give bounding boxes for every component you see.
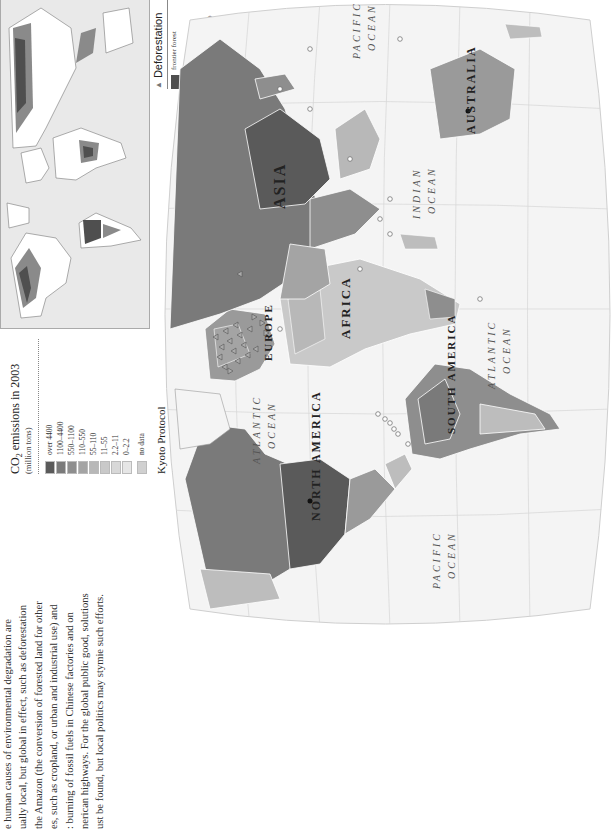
ocean-line: PACIFIC <box>431 531 442 590</box>
legend-swatch <box>100 461 110 474</box>
co2-legend-title: CO2 emissions in 2003 <box>8 334 24 474</box>
inset-congo-frontier <box>83 146 93 158</box>
legend-swatch <box>78 461 88 474</box>
label-australia-text: AUSTRALIA <box>464 45 478 134</box>
label-australia: AUSTRALIA <box>464 45 478 134</box>
legend-swatch <box>111 461 121 474</box>
co2-legend-subtitle: (million tons) <box>23 334 33 474</box>
co2-legend-item: 11–55 <box>99 334 110 474</box>
legend-label: 11–55 <box>100 437 109 455</box>
legend-label: 55–110 <box>89 433 98 455</box>
inset-map-svg <box>1 0 150 328</box>
paragraph-line: nerican highways. For the global public … <box>77 519 92 829</box>
legend-label: 0–2.2 <box>122 438 131 455</box>
co2-legend-item: 55–110 <box>88 334 99 474</box>
deforestation-inset-map <box>0 0 150 329</box>
island-marker <box>348 157 353 162</box>
co2-legend-item: 0–2.2 <box>121 334 132 474</box>
legend-swatch <box>45 461 55 474</box>
legend-label: 550–1100 <box>67 425 76 455</box>
ocean-line: INDIAN <box>411 168 422 220</box>
co2-title-prefix: CO <box>8 457 22 474</box>
paragraph-line: the Amazon (the conversion of forested l… <box>31 519 46 829</box>
co2-title-suffix: emissions in 2003 <box>8 364 22 454</box>
island-marker <box>396 432 401 437</box>
label-south-america: SOUTH AMERICA <box>445 314 457 434</box>
co2-legend-item: 2.2–11 <box>110 334 121 474</box>
island-marker <box>398 37 403 42</box>
co2-legend-item: 1100–4400 <box>55 334 66 474</box>
ocean-line: OCEAN <box>446 531 457 579</box>
label-europe-text: EUROPE <box>262 303 274 361</box>
paragraph-line: es, such as cropland, or urban and indus… <box>46 519 61 829</box>
label-north-america-text: NORTH AMERICA <box>309 390 323 521</box>
island-marker <box>478 297 483 302</box>
legend-swatch <box>56 461 66 474</box>
island-marker <box>308 47 313 52</box>
island-marker <box>383 417 388 422</box>
legend-label: 110–550 <box>78 429 87 455</box>
legend-swatch <box>137 461 147 474</box>
island-marker <box>388 197 393 202</box>
island-marker <box>278 327 283 332</box>
world-map-svg: NORTH AMERICA SOUTH AMERICA EUROPE AFRIC… <box>150 0 612 629</box>
paragraph-line: : burning of fossil fuels in Chinese fac… <box>62 519 77 829</box>
label-asia-text: ASIA <box>271 163 288 209</box>
island-marker <box>378 217 383 222</box>
paragraph-line: e human causes of environmental degradat… <box>0 519 15 829</box>
island-marker <box>308 107 313 112</box>
co2-legend-item: 550–1100 <box>66 334 77 474</box>
legend-label: no data <box>137 433 146 455</box>
intro-paragraph: e human causes of environmental degradat… <box>0 519 108 829</box>
island-marker <box>388 232 393 237</box>
ocean-line: OCEAN <box>366 3 377 51</box>
paragraph-line: ually local, but global in effect, such … <box>15 519 30 829</box>
ocean-line: OCEAN <box>266 401 277 449</box>
label-north-america: NORTH AMERICA <box>309 390 323 521</box>
legend-swatch <box>89 461 99 474</box>
legend-label: over 4400 <box>45 425 54 455</box>
co2-legend-item: over 4400 <box>44 334 55 474</box>
island-marker <box>278 87 283 92</box>
ocean-line: ATLANTIC <box>486 320 497 390</box>
divider <box>38 339 39 474</box>
legend-swatch <box>67 461 77 474</box>
co2-legend-item: no data <box>136 334 147 474</box>
label-asia: ASIA <box>271 163 288 209</box>
island-marker <box>358 267 363 272</box>
label-europe: EUROPE <box>262 303 274 361</box>
co2-legend-items: over 44001100–4400550–1100110–55055–1101… <box>44 334 147 474</box>
ocean-line: ATLANTIC <box>251 395 262 465</box>
island-marker <box>392 427 397 432</box>
island-marker <box>376 412 381 417</box>
legend-label: 2.2–11 <box>111 435 120 455</box>
label-south-america-text: SOUTH AMERICA <box>445 314 457 434</box>
label-africa: AFRICA <box>338 276 353 339</box>
label-africa-text: AFRICA <box>338 276 353 339</box>
paragraph-line: ust be found, but local politics may sty… <box>92 519 107 829</box>
island-marker <box>388 421 393 426</box>
co2-legend-item: 110–550 <box>77 334 88 474</box>
ocean-line: OCEAN <box>426 166 437 214</box>
ocean-line: PACIFIC <box>351 1 362 60</box>
world-co2-map: NORTH AMERICA SOUTH AMERICA EUROPE AFRIC… <box>150 0 612 629</box>
ocean-line: OCEAN <box>501 326 512 374</box>
legend-label: 1100–4400 <box>56 422 65 455</box>
legend-swatch <box>122 461 132 474</box>
island-marker <box>406 442 411 447</box>
